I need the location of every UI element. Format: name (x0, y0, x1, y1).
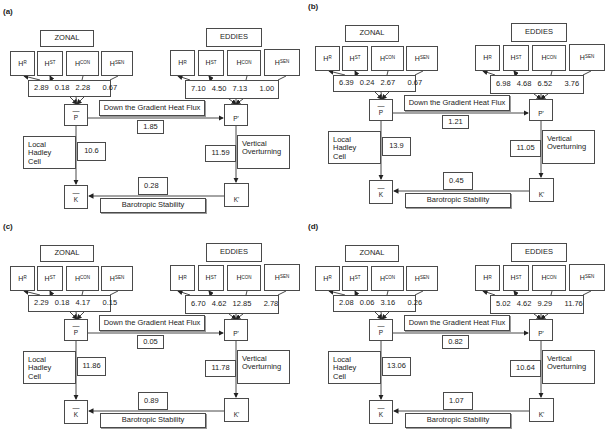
energy-cycle-panel-b: (b) ZONAL HR HST HCON HSEN 6.39 0.24 2.6… (305, 0, 610, 209)
zonal-h-con-box: HCON (66, 266, 99, 291)
node-label: P' (233, 330, 239, 337)
zonal-header: ZONAL (345, 25, 399, 42)
eddy-value-hcon: 7.13 (233, 85, 248, 93)
fan-zonal-2 (382, 312, 389, 319)
zonal-h-r-box: HR (10, 266, 35, 291)
local-hadley-label: Local HadleyCell (23, 136, 76, 169)
eddies-header: EDDIES (206, 243, 262, 262)
h-sub: ST (50, 61, 56, 66)
eddy-value-hcon: 9.29 (538, 300, 553, 308)
link-eddy-hsen (278, 291, 286, 295)
node-label: P (74, 114, 78, 121)
zonal-value-hst: 0.18 (55, 84, 70, 92)
hadley-line2: Cell (333, 372, 346, 381)
eddy-h-sen-box: HSEN (264, 49, 300, 76)
h-sub: R (328, 276, 331, 281)
h-sub: ST (50, 276, 56, 281)
panel-label: (c) (3, 222, 13, 231)
zonal-values-box: 2.08 0.06 3.16 0.26 (333, 295, 416, 312)
eddy-values-box: 6.98 4.68 6.52 3.76 (490, 75, 584, 94)
eddy-value-hcon: 6.52 (538, 80, 553, 88)
eddy-value-hr: 6.70 (191, 300, 206, 308)
zonal-ke-node: — K (64, 185, 88, 209)
zonal-h-st-box: HST (342, 266, 368, 291)
eddy-value-hst: 4.50 (212, 85, 227, 93)
barotropic-value: 0.28 (138, 177, 168, 195)
h-sub: SEN (115, 61, 124, 66)
eddy-h-con-box: HCON (227, 50, 261, 76)
h-sub: R (488, 56, 491, 61)
vertical-line2: Overturning (547, 362, 586, 371)
eddy-h-r-box: HR (170, 265, 195, 291)
h-sub: R (328, 56, 331, 61)
energy-cycle-panel-a: (a) ZONAL HR HST HCON HSEN 2.89 0.18 2.2… (0, 0, 305, 214)
eddy-h-con-box: HCON (227, 265, 261, 291)
eddies-header: EDDIES (511, 243, 567, 262)
eddy-ke-node: K' (224, 183, 249, 207)
eddy-ke-node: K' (224, 398, 249, 422)
link-zonal-hsen (110, 76, 118, 80)
hadley-value: 13.9 (382, 137, 411, 156)
panel-label: (a) (3, 7, 13, 16)
zonal-values-box: 2.29 0.18 4.17 0.15 (28, 295, 111, 312)
node-label: K (74, 196, 78, 203)
hadley-line2: Cell (333, 152, 346, 161)
vertical-overturning-label: VerticalOverturning (237, 135, 290, 169)
vertical-line2: Overturning (242, 362, 281, 371)
zonal-h-r-box: HR (315, 266, 340, 291)
h-sub: ST (516, 56, 522, 61)
node-label: P' (233, 115, 239, 122)
barotropic-value: 0.89 (138, 392, 168, 410)
node-label: K' (539, 411, 545, 418)
zonal-value-hcon: 3.16 (381, 299, 396, 307)
eddy-value-hr: 7.10 (191, 85, 206, 93)
vertical-line2: Overturning (242, 147, 281, 156)
eddy-h-con-box: HCON (532, 45, 566, 71)
eddies-header: EDDIES (511, 23, 567, 42)
energy-cycle-panel-c: (c) ZONAL HR HST HCON HSEN 2.29 0.18 4.1… (0, 215, 305, 429)
vertical-overturning-value: 11.59 (205, 145, 236, 162)
eddy-ape-node: P' (529, 99, 553, 121)
node-label: K (379, 191, 383, 198)
h-sub: ST (516, 276, 522, 281)
node-label: P (74, 329, 78, 336)
zonal-h-con-box: HCON (371, 266, 404, 291)
link-zonal-hsen (415, 71, 423, 75)
vertical-overturning-label: VerticalOverturning (237, 350, 290, 384)
zonal-h-sen-box: HSEN (101, 51, 133, 76)
link-eddy-hsen (278, 76, 286, 80)
vertical-overturning-label: VerticalOverturning (542, 130, 595, 164)
zonal-value-hcon: 2.67 (381, 79, 396, 87)
node-label: P (379, 109, 383, 116)
node-label: P (379, 329, 383, 336)
link-zonal-hsen (110, 291, 118, 295)
energy-cycle-panel-d: (d) ZONAL HR HST HCON HSEN 2.08 0.06 3.1… (305, 215, 610, 429)
zonal-h-r-box: HR (315, 46, 340, 71)
gradient-flux-value: 0.82 (442, 335, 469, 349)
hadley-value: 13.06 (382, 357, 411, 376)
zonal-ape-node: — P (369, 99, 393, 121)
h-sub: CON (547, 276, 557, 281)
eddy-value-hr: 5.02 (496, 300, 511, 308)
eddy-h-st-box: HST (198, 265, 224, 291)
zonal-value-hcon: 2.28 (76, 84, 91, 92)
zonal-value-hst: 0.06 (360, 299, 375, 307)
eddy-value-hr: 6.98 (496, 80, 511, 88)
node-label: K' (234, 196, 240, 203)
eddy-h-st-box: HST (503, 265, 529, 291)
h-sub: SEN (585, 55, 594, 60)
eddy-value-hsen: 2.78 (264, 300, 279, 308)
zonal-value-hst: 0.24 (360, 79, 375, 87)
eddy-value-hst: 4.68 (517, 80, 532, 88)
zonal-h-st-box: HST (37, 51, 63, 76)
vertical-overturning-label: VerticalOverturning (542, 350, 595, 384)
zonal-header: ZONAL (345, 245, 399, 262)
h-sub: R (23, 276, 26, 281)
h-sub: R (23, 61, 26, 66)
eddy-h-st-box: HST (503, 45, 529, 71)
h-sub: CON (80, 276, 90, 281)
node-label: P' (538, 110, 544, 117)
eddy-ape-node: P' (224, 104, 248, 126)
zonal-value-hsen: 0.67 (103, 84, 118, 92)
hadley-value: 11.86 (77, 357, 106, 376)
